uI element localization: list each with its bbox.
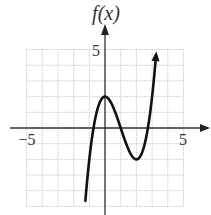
y-axis-label: f(x)	[92, 2, 120, 25]
x-tick-label-neg5: −5	[18, 131, 35, 148]
function-graph: f(x) 5 −5 5	[0, 0, 211, 215]
axes	[10, 24, 210, 215]
y-axis-arrow-icon	[101, 24, 109, 35]
curve-arrow-icon	[152, 51, 160, 61]
x-tick-label-5: 5	[179, 131, 187, 148]
x-axis-arrow-icon	[200, 124, 210, 132]
y-tick-label-5: 5	[92, 42, 100, 59]
